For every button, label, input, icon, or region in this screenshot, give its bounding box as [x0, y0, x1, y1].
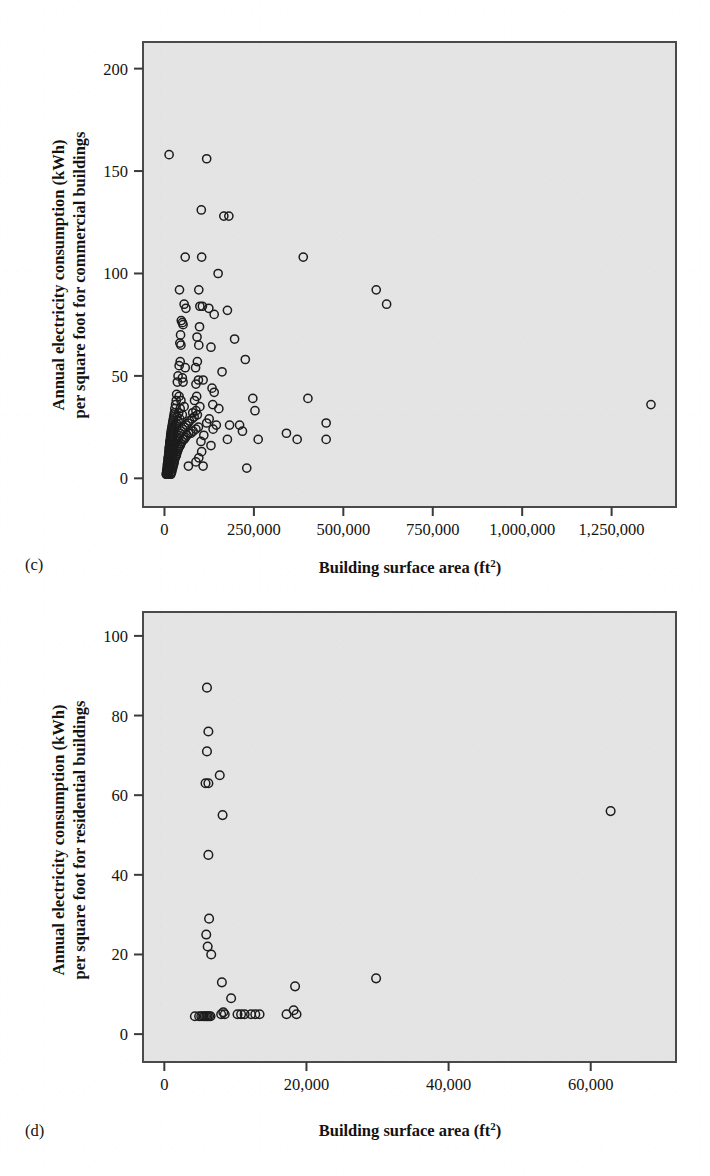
x-tick-label: 1,250,000 — [579, 520, 645, 539]
x-tick-label: 40,000 — [426, 1075, 471, 1094]
y-tick-label: 40 — [112, 866, 129, 885]
y-axis-title-line2-c: per square foot for commercial buildings — [70, 131, 89, 419]
x-axis-ticks-c: 0250,000500,000750,0001,000,0001,250,000 — [160, 507, 644, 539]
x-tick-label: 0 — [160, 1075, 168, 1094]
x-axis-title-d: Building surface area (ft2) — [319, 1120, 502, 1140]
x-axis-title-text-c: Building surface area (ft — [319, 558, 491, 577]
y-axis-title-line1-c: Annual electricity consumption (kWh) — [49, 140, 68, 411]
y-axis-title-d: Annual electricity consumption (kWh) per… — [49, 700, 89, 979]
y-axis-ticks-d: 020406080100 — [103, 627, 143, 1044]
x-tick-label: 60,000 — [568, 1075, 613, 1094]
y-tick-label: 50 — [112, 367, 129, 386]
x-axis-ticks-d: 020,00040,00060,000 — [160, 1062, 613, 1094]
y-axis-ticks-c: 050100150200 — [103, 60, 143, 489]
plot-area-background-d — [143, 612, 676, 1062]
figure-panel-d: 020406080100 020,00040,00060,000 Annual … — [0, 590, 710, 1176]
panel-label-c: (c) — [25, 555, 43, 574]
x-axis-title-tail-c: ) — [496, 558, 502, 577]
figure-panel-c: 050100150200 0250,000500,000750,0001,000… — [0, 0, 710, 590]
x-tick-label: 1,000,000 — [489, 520, 555, 539]
y-tick-label: 80 — [112, 707, 129, 726]
x-tick-label: 750,000 — [406, 520, 460, 539]
scatter-chart-commercial: 050100150200 0250,000500,000750,0001,000… — [0, 0, 710, 590]
scatter-chart-residential: 020406080100 020,00040,00060,000 Annual … — [0, 590, 710, 1176]
y-tick-label: 200 — [103, 60, 128, 79]
x-axis-title-tail-d: ) — [496, 1121, 502, 1140]
y-axis-title-c: Annual electricity consumption (kWh) per… — [49, 131, 89, 419]
panel-label-d: (d) — [25, 1121, 44, 1140]
y-tick-label: 20 — [112, 945, 129, 964]
svg-text:Building surface area (ft2): Building surface area (ft2) — [319, 1120, 502, 1140]
y-tick-label: 0 — [120, 1025, 128, 1044]
x-axis-title-c: Building surface area (ft2) — [319, 557, 502, 577]
y-tick-label: 0 — [120, 469, 128, 488]
y-tick-label: 60 — [112, 786, 129, 805]
y-tick-label: 100 — [103, 264, 128, 283]
y-axis-title-line2-d: per square foot for residential building… — [70, 700, 89, 979]
y-axis-title-line1-d: Annual electricity consumption (kWh) — [49, 705, 68, 976]
y-tick-label: 100 — [103, 627, 128, 646]
y-tick-label: 150 — [103, 162, 128, 181]
x-tick-label: 500,000 — [317, 520, 371, 539]
x-axis-title-text-d: Building surface area (ft — [319, 1121, 491, 1140]
x-tick-label: 20,000 — [284, 1075, 329, 1094]
x-tick-label: 0 — [160, 520, 168, 539]
plot-area-background-c — [143, 42, 676, 507]
svg-text:Building surface area (ft2): Building surface area (ft2) — [319, 557, 502, 577]
x-tick-label: 250,000 — [227, 520, 281, 539]
